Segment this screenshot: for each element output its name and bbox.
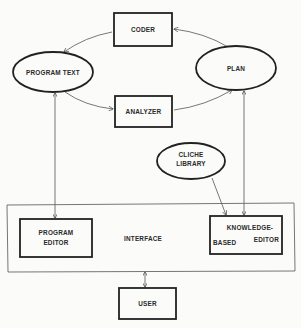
knowledge-editor-label-line1: KNOWLEDGE- xyxy=(227,224,273,231)
coder-label: CODER xyxy=(131,26,155,33)
program-editor-label-line2: EDITOR xyxy=(43,239,68,246)
user-label: USER xyxy=(138,300,157,307)
edge-program-text-to-analyzer xyxy=(65,92,113,109)
edge-plan-to-coder xyxy=(174,29,228,47)
analyzer-label: ANALYZER xyxy=(126,108,162,115)
node-coder: CODER xyxy=(114,13,172,46)
node-cliche-library: CLICHE LIBRARY xyxy=(157,143,225,179)
node-plan: PLAN xyxy=(196,46,276,90)
edge-coder-to-program-text xyxy=(64,32,112,52)
program-text-label: PROGRAM TEXT xyxy=(26,69,80,76)
plan-label: PLAN xyxy=(227,65,245,72)
node-knowledge-based-editor: KNOWLEDGE- BASED EDITOR xyxy=(210,216,282,254)
node-program-editor: PROGRAM EDITOR xyxy=(20,219,92,257)
system-architecture-diagram: CODER PROGRAM TEXT PLAN ANALYZER CLICHE … xyxy=(0,0,301,328)
knowledge-editor-label-line2b: EDITOR xyxy=(254,236,279,243)
edge-cliche-to-knowledge-editor xyxy=(212,178,226,215)
program-editor-label-line1: PROGRAM xyxy=(39,229,74,236)
cliche-library-label-line2: LIBRARY xyxy=(176,160,206,167)
node-analyzer: ANALYZER xyxy=(115,96,172,127)
knowledge-editor-label-line2a: BASED xyxy=(213,239,237,246)
node-user: USER xyxy=(119,288,176,319)
cliche-library-label-line1: CLICHE xyxy=(179,151,205,158)
interface-label: INTERFACE xyxy=(124,235,163,242)
edge-analyzer-to-plan xyxy=(174,90,232,110)
node-program-text: PROGRAM TEXT xyxy=(13,52,93,92)
